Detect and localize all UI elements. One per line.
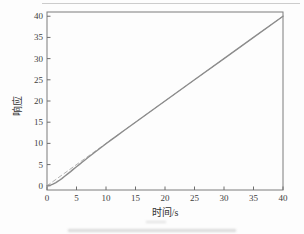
ramp-response-chart: 05101520253035400510152025303540 时间/s 响应 (0, 0, 304, 234)
y-tick-label: 15 (34, 117, 44, 127)
x-tick-label: 40 (279, 193, 289, 203)
x-axis-title: 时间/s (152, 206, 179, 218)
x-tick-label: 10 (102, 193, 112, 203)
scanned-figure-page: 05101520253035400510152025303540 时间/s 响应 (0, 0, 304, 234)
y-tick-label: 25 (34, 75, 44, 85)
x-tick-label: 0 (45, 193, 50, 203)
data-series (47, 16, 283, 186)
y-tick-label: 20 (34, 96, 44, 106)
x-tick-label: 25 (190, 193, 200, 203)
x-tick-label: 20 (161, 193, 171, 203)
y-tick-label: 35 (34, 32, 44, 42)
y-tick-label: 10 (34, 138, 44, 148)
x-tick-label: 30 (220, 193, 230, 203)
y-tick-label: 0 (39, 181, 44, 191)
y-tick-label: 5 (39, 160, 44, 170)
y-tick-label: 40 (34, 11, 44, 21)
x-tick-label: 15 (131, 193, 141, 203)
x-tick-label: 5 (74, 193, 79, 203)
y-axis-title: 响应 (11, 96, 23, 116)
x-tick-label: 35 (249, 193, 259, 203)
y-tick-label: 30 (34, 54, 44, 64)
